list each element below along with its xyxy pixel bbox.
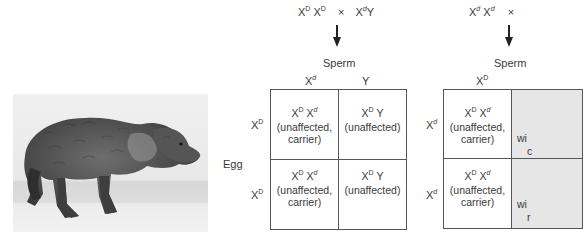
- right-cross-symbol: ×: [508, 6, 514, 18]
- left-father-genotype: XdY: [355, 6, 374, 18]
- cell-genotype: XD Xd: [444, 170, 511, 183]
- right-grid-horizontal-divider: [444, 158, 582, 159]
- cell-genotype: XD Y: [339, 107, 406, 120]
- left-cell-top-left: XD Xd (unaffected, carrier): [271, 107, 338, 146]
- left-cross-symbol: ×: [338, 6, 344, 18]
- left-sperm-label: Sperm: [323, 58, 355, 69]
- right-cell-top-right: wi c: [512, 132, 552, 157]
- left-cell-top-right: XD Y (unaffected): [339, 107, 406, 133]
- cell-partial-text: wi: [517, 198, 527, 210]
- left-egg-allele-1: XD: [251, 120, 263, 131]
- right-sperm-label: Sperm: [494, 58, 526, 69]
- left-egg-allele-2: XD: [251, 190, 263, 201]
- cell-phenotype-line1: (unaffected,: [277, 184, 332, 196]
- cell-phenotype-line1: (unaffected,: [450, 121, 505, 133]
- left-arrow-down-icon: [333, 37, 341, 47]
- cell-phenotype-line1: (unaffected,: [450, 184, 505, 196]
- left-cell-bottom-right: XD Y (unaffected): [339, 170, 406, 196]
- dog-illustration: [13, 94, 208, 232]
- left-cell-bottom-left: XD Xd (unaffected, carrier): [271, 170, 338, 209]
- cell-genotype: XD Y: [339, 170, 406, 183]
- right-arrow-down-icon: [505, 37, 513, 47]
- left-punnett-square: XD Xd (unaffected, carrier) XD Y (unaffe…: [270, 89, 407, 230]
- cell-phenotype-line2: carrier): [288, 133, 321, 145]
- right-cell-bottom-right: wi r: [512, 198, 552, 223]
- cell-phenotype-line2: carrier): [461, 196, 494, 208]
- left-mother-genotype: XD XD: [298, 6, 329, 18]
- cell-partial-text-2: c: [517, 145, 532, 157]
- cell-phenotype-line2: carrier): [461, 133, 494, 145]
- cell-phenotype-line1: (unaffected): [345, 184, 401, 196]
- right-sperm-allele-1: XD: [476, 76, 488, 87]
- left-grid-horizontal-divider: [271, 159, 406, 160]
- right-egg-allele-2: Xd: [426, 190, 437, 201]
- cell-partial-text: wi: [517, 132, 527, 144]
- dog-photo: [13, 94, 208, 232]
- cell-genotype: XD Xd: [271, 170, 338, 183]
- cell-partial-text-2: r: [517, 211, 531, 223]
- right-egg-allele-1: Xd: [426, 120, 437, 131]
- right-cross-parents: Xd Xd ×: [469, 7, 514, 18]
- cell-phenotype-line1: (unaffected,: [277, 121, 332, 133]
- cell-phenotype-line1: (unaffected): [345, 121, 401, 133]
- cell-genotype: XD Xd: [271, 107, 338, 120]
- right-punnett-square: XD Xd (unaffected, carrier) wi c XD Xd (…: [443, 89, 583, 229]
- left-egg-label: Egg: [223, 159, 243, 170]
- left-sperm-allele-2: Y: [362, 76, 369, 87]
- right-cell-top-left: XD Xd (unaffected, carrier): [444, 107, 511, 146]
- left-sperm-allele-1: Xd: [305, 76, 316, 87]
- left-cross-parents: XD XD × XdY: [298, 7, 374, 18]
- right-mother-genotype: Xd Xd: [469, 6, 498, 18]
- cell-phenotype-line2: carrier): [288, 196, 321, 208]
- cell-genotype: XD Xd: [444, 107, 511, 120]
- right-cell-bottom-left: XD Xd (unaffected, carrier): [444, 170, 511, 209]
